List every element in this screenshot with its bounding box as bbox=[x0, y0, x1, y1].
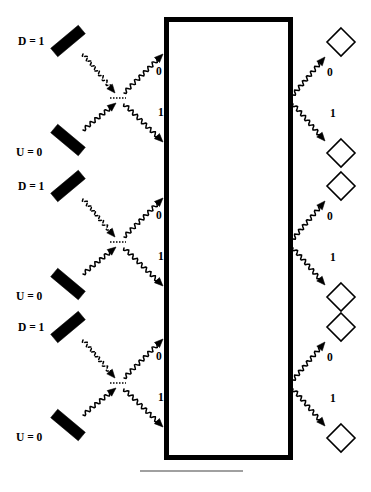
beam-0-in-1-arrowhead bbox=[154, 54, 163, 63]
beam-0-in-2-wave bbox=[124, 201, 157, 237]
beam-1-in-2-label: 1 bbox=[158, 251, 164, 263]
beam-0-out-3-label: 0 bbox=[327, 352, 333, 364]
beam-1-in-3-label: 1 bbox=[158, 392, 164, 404]
central-device-box[interactable] bbox=[166, 19, 290, 457]
beam-1-out-3-arrowhead bbox=[317, 417, 325, 426]
beam-0-in-3-wave bbox=[124, 342, 157, 378]
mirror-u-bottom-2-label: U = 0 bbox=[16, 291, 42, 303]
beam-1-out-2-wave bbox=[292, 248, 322, 279]
beam-1-out-1-wave bbox=[292, 104, 322, 135]
detector-0-2[interactable] bbox=[327, 172, 355, 200]
beam-1-out-3-label: 1 bbox=[330, 393, 336, 405]
beam-0-out-1-label: 0 bbox=[327, 67, 333, 79]
beam-1-out-3-wave bbox=[292, 389, 322, 420]
beam-0-out-2-label: 0 bbox=[327, 211, 333, 223]
beam-0-in-1-label: 0 bbox=[156, 66, 162, 78]
mirror-d-top-2-label: D = 1 bbox=[18, 181, 44, 193]
beam-1-out-1-arrowhead bbox=[317, 132, 325, 141]
beam-in-d-1-wave bbox=[82, 54, 111, 89]
schematic-vector-art bbox=[0, 0, 371, 492]
beam-0-in-2-arrowhead bbox=[154, 198, 163, 207]
mirror-d-top-3-label: D = 1 bbox=[18, 322, 44, 334]
beam-0-in-3-arrowhead bbox=[154, 339, 163, 348]
beam-0-in-3-label: 0 bbox=[156, 351, 162, 363]
mirror-d-top-1-bar bbox=[51, 25, 86, 57]
figure-canvas: D = 1U = 00101D = 1U = 00101D = 1U = 001… bbox=[0, 0, 371, 492]
beam-in-u-3-wave bbox=[83, 391, 110, 416]
beam-0-out-3-arrowhead bbox=[317, 342, 325, 351]
mirror-u-bottom-3-label: U = 0 bbox=[16, 432, 42, 444]
mirror-d-top-2-bar bbox=[51, 170, 86, 202]
beam-1-out-2-arrowhead bbox=[317, 276, 325, 285]
device-box-group bbox=[166, 19, 290, 457]
beam-in-d-2-wave bbox=[82, 199, 111, 232]
detector-0-3[interactable] bbox=[327, 313, 355, 341]
beam-0-out-3-wave bbox=[293, 347, 320, 381]
beam-1-in-1-wave bbox=[124, 104, 160, 137]
mirror-u-bottom-1-label: U = 0 bbox=[16, 147, 42, 159]
beam-in-u-2-wave bbox=[83, 250, 110, 275]
detector-1-3[interactable] bbox=[327, 424, 355, 452]
beam-0-in-2-label: 0 bbox=[156, 210, 162, 222]
mirror-u-bottom-2-bar bbox=[51, 268, 86, 300]
beam-1-in-2-wave bbox=[124, 248, 160, 281]
beam-0-out-1-arrowhead bbox=[317, 57, 325, 66]
mirror-u-bottom-3-bar bbox=[51, 409, 86, 441]
beam-1-in-3-wave bbox=[124, 389, 160, 422]
beam-1-in-1-label: 1 bbox=[158, 107, 164, 119]
detector-1-2[interactable] bbox=[327, 283, 355, 311]
mirror-d-top-3-bar bbox=[51, 311, 86, 343]
mirror-d-top-1-label: D = 1 bbox=[18, 36, 44, 48]
detector-1-1[interactable] bbox=[327, 139, 355, 167]
beam-0-out-2-wave bbox=[293, 206, 320, 240]
detector-0-1[interactable] bbox=[327, 28, 355, 56]
beam-1-out-2-label: 1 bbox=[330, 252, 336, 264]
beam-0-out-1-wave bbox=[293, 62, 320, 96]
beam-in-u-1-wave bbox=[83, 106, 110, 131]
beam-in-u-2-arrowhead bbox=[107, 247, 116, 255]
beam-1-out-1-label: 1 bbox=[330, 108, 336, 120]
beam-in-u-1-arrowhead bbox=[107, 103, 116, 111]
beam-in-d-3-wave bbox=[82, 340, 111, 373]
beam-in-u-3-arrowhead bbox=[107, 388, 116, 396]
beam-0-in-1-wave bbox=[124, 57, 157, 93]
beam-0-out-2-arrowhead bbox=[317, 201, 325, 210]
mirror-u-bottom-1-bar bbox=[51, 124, 86, 156]
